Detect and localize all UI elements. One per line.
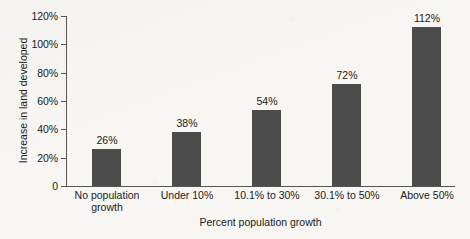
x-tick-label-line: Above 50% bbox=[383, 190, 470, 202]
y-tick-label: 60% bbox=[0, 96, 58, 106]
bar bbox=[332, 84, 361, 186]
bar-value-label: 112% bbox=[387, 13, 467, 24]
y-tick-label: 0 bbox=[0, 181, 58, 191]
y-tick-label-wrap: 80% bbox=[0, 68, 58, 78]
bar-group: 26%No populationgrowth bbox=[67, 0, 147, 239]
y-tick-mark bbox=[61, 16, 66, 17]
plot-area: 020%40%60%80%100%120% Increase in land d… bbox=[0, 0, 470, 239]
bar-value-label: 72% bbox=[307, 70, 387, 81]
y-tick-label: 120% bbox=[0, 11, 58, 21]
y-axis-title: Increase in land developed bbox=[18, 21, 29, 181]
bar-value-label: 38% bbox=[147, 118, 227, 129]
y-tick-label: 80% bbox=[0, 68, 58, 78]
bar bbox=[412, 27, 441, 186]
bar-value-label: 26% bbox=[67, 135, 147, 146]
y-tick-mark bbox=[61, 158, 66, 159]
x-tick-label-line: growth bbox=[63, 202, 151, 214]
y-tick-mark bbox=[61, 186, 66, 187]
y-tick-mark bbox=[61, 101, 66, 102]
y-tick-label-wrap: 100% bbox=[0, 39, 58, 49]
x-tick-label-line: 30.1% to 50% bbox=[303, 190, 391, 202]
bar-group: 72%30.1% to 50% bbox=[307, 0, 387, 239]
bar-group: 38%Under 10% bbox=[147, 0, 227, 239]
y-tick-mark bbox=[61, 129, 66, 130]
bar-value-label: 54% bbox=[227, 96, 307, 107]
y-tick-label-wrap: 20% bbox=[0, 153, 58, 163]
x-tick-label: No populationgrowth bbox=[63, 190, 151, 213]
y-tick-label: 100% bbox=[0, 39, 58, 49]
y-tick-label-wrap: 0 bbox=[0, 181, 58, 191]
bar-group: 112%Above 50% bbox=[387, 0, 467, 239]
x-tick-label-line: 10.1% to 30% bbox=[223, 190, 311, 202]
bar bbox=[172, 132, 201, 186]
x-tick-label-line: Under 10% bbox=[143, 190, 231, 202]
y-tick-mark bbox=[61, 73, 66, 74]
x-tick-label: Under 10% bbox=[143, 190, 231, 202]
y-tick-label-wrap: 40% bbox=[0, 124, 58, 134]
y-tick-label-wrap: 60% bbox=[0, 96, 58, 106]
bar-chart-figure: 020%40%60%80%100%120% Increase in land d… bbox=[0, 0, 470, 239]
bar-group: 54%10.1% to 30% bbox=[227, 0, 307, 239]
y-tick-label-wrap: 120% bbox=[0, 11, 58, 21]
bar bbox=[252, 110, 281, 187]
x-tick-label: 30.1% to 50% bbox=[303, 190, 391, 202]
x-tick-label: 10.1% to 30% bbox=[223, 190, 311, 202]
x-tick-label: Above 50% bbox=[383, 190, 470, 202]
x-tick-label-line: No population bbox=[63, 190, 151, 202]
y-tick-mark bbox=[61, 44, 66, 45]
y-tick-label: 20% bbox=[0, 153, 58, 163]
bar bbox=[92, 149, 121, 186]
y-tick-label: 40% bbox=[0, 124, 58, 134]
